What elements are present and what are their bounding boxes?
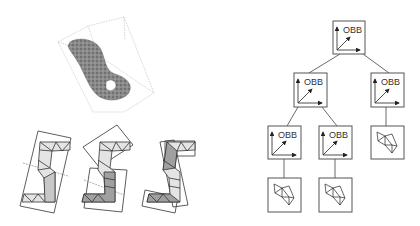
tree-leaf-left (268, 178, 301, 212)
obb-label: OBB (381, 77, 400, 87)
tree-leaf-mid (319, 178, 352, 212)
tree-node-l2-left: OBB (294, 73, 327, 107)
obb-label: OBB (343, 25, 362, 35)
shape-2d-3 (142, 140, 195, 213)
tree-node-l3-mid: OBB (319, 126, 352, 159)
mesh-3d (58, 17, 154, 112)
tree-node-root: OBB (333, 21, 365, 54)
tree-leaf-right (371, 126, 404, 159)
obb-label: OBB (278, 130, 297, 140)
shape-2d-1 (20, 131, 71, 213)
obb-figure: OBB OBB OBB OBB (0, 0, 420, 226)
shape-2d-2 (82, 125, 133, 212)
obb-label: OBB (304, 77, 323, 87)
tree-node-l2-right: OBB (371, 73, 404, 107)
obb-label: OBB (329, 130, 348, 140)
tree-node-l3-left: OBB (268, 126, 301, 159)
